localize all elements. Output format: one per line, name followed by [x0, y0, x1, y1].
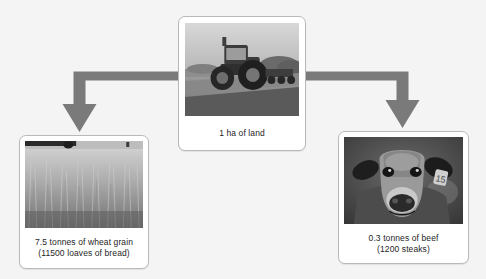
land-yield-diagram: 1 ha of land: [0, 0, 486, 279]
cow-head-photo: 15: [344, 137, 463, 224]
card-beef-caption-line1: 0.3 tonnes of beef: [369, 233, 439, 244]
card-land[interactable]: 1 ha of land: [178, 16, 306, 151]
svg-text:15: 15: [435, 173, 447, 185]
wheat-field-photo: [25, 141, 143, 228]
card-beef[interactable]: 15 0.3 tonnes of beef (1200: [338, 131, 469, 264]
card-beef-caption: 0.3 tonnes of beef (1200 steaks): [344, 224, 463, 263]
card-wheat-caption-line2: (11500 loaves of bread): [38, 248, 129, 259]
card-wheat-caption: 7.5 tonnes of wheat grain (11500 loaves …: [25, 228, 143, 268]
card-wheat-caption-line1: 7.5 tonnes of wheat grain: [35, 237, 133, 248]
card-land-caption-line1: 1 ha of land: [219, 128, 265, 139]
tractor-in-field-photo: [185, 23, 299, 116]
card-beef-caption-line2: (1200 steaks): [377, 244, 430, 255]
card-wheat[interactable]: 7.5 tonnes of wheat grain (11500 loaves …: [19, 135, 149, 269]
elbow-arrow-left-icon: [63, 72, 179, 133]
card-land-caption: 1 ha of land: [185, 116, 299, 150]
elbow-arrow-right-icon: [306, 72, 420, 129]
